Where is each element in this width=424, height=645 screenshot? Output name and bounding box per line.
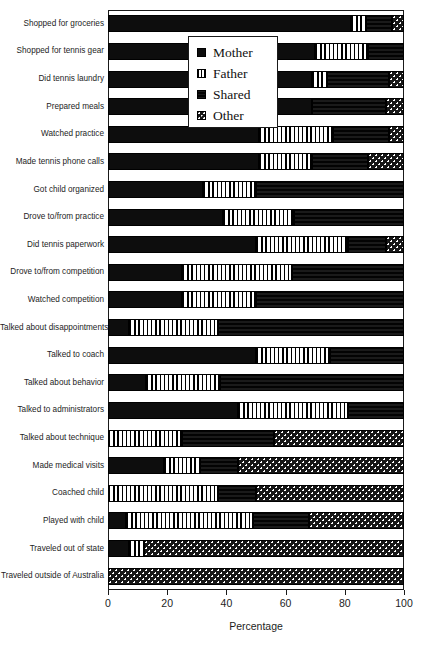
bar-segment-father — [126, 512, 253, 529]
bar-segment-mother — [108, 347, 256, 364]
x-axis-tick — [286, 590, 287, 595]
category-label: Shopped for groceries — [0, 19, 104, 29]
bar-segment-other — [392, 15, 404, 32]
bar-segment-father — [108, 485, 218, 502]
bar-row — [108, 507, 404, 535]
x-axis-title: Percentage — [108, 620, 404, 632]
bar-segment-mother — [108, 457, 164, 474]
bar-segment-mother — [108, 209, 223, 226]
x-axis-tick — [108, 590, 109, 595]
stacked-bar — [108, 540, 404, 557]
bar-segment-father — [129, 540, 144, 557]
category-label: Did tennis laundry — [0, 74, 104, 84]
stacked-bar — [108, 264, 404, 281]
legend-label-other: Other — [213, 108, 244, 124]
legend-item-father: Father — [197, 63, 277, 84]
bar-segment-shared — [182, 430, 274, 447]
bar-segment-shared — [312, 98, 386, 115]
stacked-bar-chart: Shopped for groceriesShopped for tennis … — [0, 0, 424, 645]
bar-row — [108, 203, 404, 231]
bar-segment-other — [386, 236, 404, 253]
x-axis-tick-label: 40 — [221, 597, 233, 609]
bar-segment-shared — [327, 71, 389, 88]
category-label: Traveled outside of Australia — [0, 571, 104, 581]
bar-row — [108, 562, 404, 590]
bar-segment-father — [315, 43, 368, 60]
bar-segment-mother — [108, 153, 259, 170]
bar-segment-other — [144, 540, 404, 557]
bar-row — [108, 369, 404, 397]
bar-segment-other — [368, 153, 404, 170]
category-label: Played with child — [0, 516, 104, 526]
category-label: Did tennis paperwork — [0, 240, 104, 250]
bar-segment-other — [389, 126, 404, 143]
legend-label-father: Father — [213, 66, 248, 82]
bar-segment-shared — [312, 153, 368, 170]
stacked-bar — [108, 319, 404, 336]
stacked-bar — [108, 485, 404, 502]
bar-segment-other — [389, 71, 404, 88]
x-axis-tick — [226, 590, 227, 595]
x-axis-tick-label: 0 — [105, 597, 111, 609]
bar-segment-father — [182, 291, 256, 308]
bar-segment-shared — [348, 402, 404, 419]
bar-segment-father — [312, 71, 327, 88]
legend-swatch-other-icon — [197, 111, 206, 120]
bar-segment-father — [238, 402, 348, 419]
bar-segment-shared — [333, 126, 389, 143]
bar-row — [108, 259, 404, 287]
bar-segment-mother — [108, 264, 182, 281]
stacked-bar — [108, 568, 404, 585]
bar-segment-father — [223, 209, 294, 226]
category-label: Talked to coach — [0, 350, 104, 360]
bar-row — [108, 452, 404, 480]
category-axis-labels: Shopped for groceriesShopped for tennis … — [0, 10, 104, 590]
bar-segment-shared — [256, 291, 404, 308]
bar-row — [108, 10, 404, 38]
bar-row — [108, 341, 404, 369]
category-label: Watched practice — [0, 129, 104, 139]
bar-row — [108, 397, 404, 425]
category-label: Drove to/from competition — [0, 267, 104, 277]
bar-segment-mother — [108, 374, 146, 391]
category-label: Talked about disappointments — [0, 323, 104, 333]
bar-segment-shared — [292, 264, 404, 281]
bar-segment-father — [108, 430, 182, 447]
bar-row — [108, 176, 404, 204]
legend-swatch-shared-icon — [197, 90, 206, 99]
bar-row — [108, 231, 404, 259]
category-label: Talked about behavior — [0, 378, 104, 388]
category-label: Coached child — [0, 488, 104, 498]
bar-segment-mother — [108, 291, 182, 308]
bar-segment-mother — [108, 540, 129, 557]
bar-segment-other — [238, 457, 404, 474]
category-label: Shopped for tennis gear — [0, 46, 104, 56]
bar-segment-shared — [218, 319, 404, 336]
bar-row — [108, 535, 404, 563]
stacked-bar — [108, 347, 404, 364]
x-axis-tick — [345, 590, 346, 595]
bar-segment-father — [351, 15, 366, 32]
chart-legend: Mother Father Shared Other — [188, 36, 278, 128]
legend-label-shared: Shared — [213, 87, 251, 103]
category-label: Got child organized — [0, 185, 104, 195]
x-axis-tick-label: 60 — [280, 597, 292, 609]
bar-segment-shared — [220, 374, 404, 391]
legend-label-mother: Mother — [213, 45, 253, 61]
bar-segment-father — [164, 457, 200, 474]
stacked-bar — [108, 402, 404, 419]
bar-segment-father — [146, 374, 220, 391]
legend-swatch-mother-icon — [197, 48, 206, 57]
bar-segment-shared — [200, 457, 238, 474]
bar-segment-father — [256, 236, 348, 253]
x-axis-tick — [167, 590, 168, 595]
bar-segment-mother — [108, 15, 351, 32]
x-axis-tick-label: 80 — [339, 597, 351, 609]
category-label: Made tennis phone calls — [0, 157, 104, 167]
bar-segment-other — [108, 568, 404, 585]
bar-segment-shared — [366, 15, 393, 32]
x-axis-tick — [404, 590, 405, 595]
bar-segment-shared — [330, 347, 404, 364]
bar-row — [108, 314, 404, 342]
bar-row — [108, 480, 404, 508]
